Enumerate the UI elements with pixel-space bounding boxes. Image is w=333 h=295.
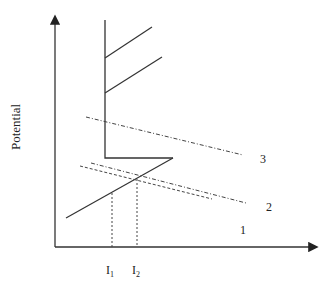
curve-1-vertical-step [105,20,173,158]
curve-1-label: 1 [240,224,246,236]
upper-branch-1 [105,27,152,58]
i2-subscript: 2 [136,270,140,279]
diagram-canvas [0,0,333,295]
curve-2-line [91,163,246,203]
curve-2-secondary-line [80,166,212,199]
curve-3-label: 3 [260,153,266,165]
upper-branch-2 [105,57,162,93]
curve-3-line [86,117,243,155]
y-axis-label: Potential [8,104,24,150]
i2-label: I2 [132,264,140,279]
i1-label: I1 [106,264,114,279]
curve-2-label: 2 [266,201,272,213]
i1-subscript: 1 [110,270,114,279]
